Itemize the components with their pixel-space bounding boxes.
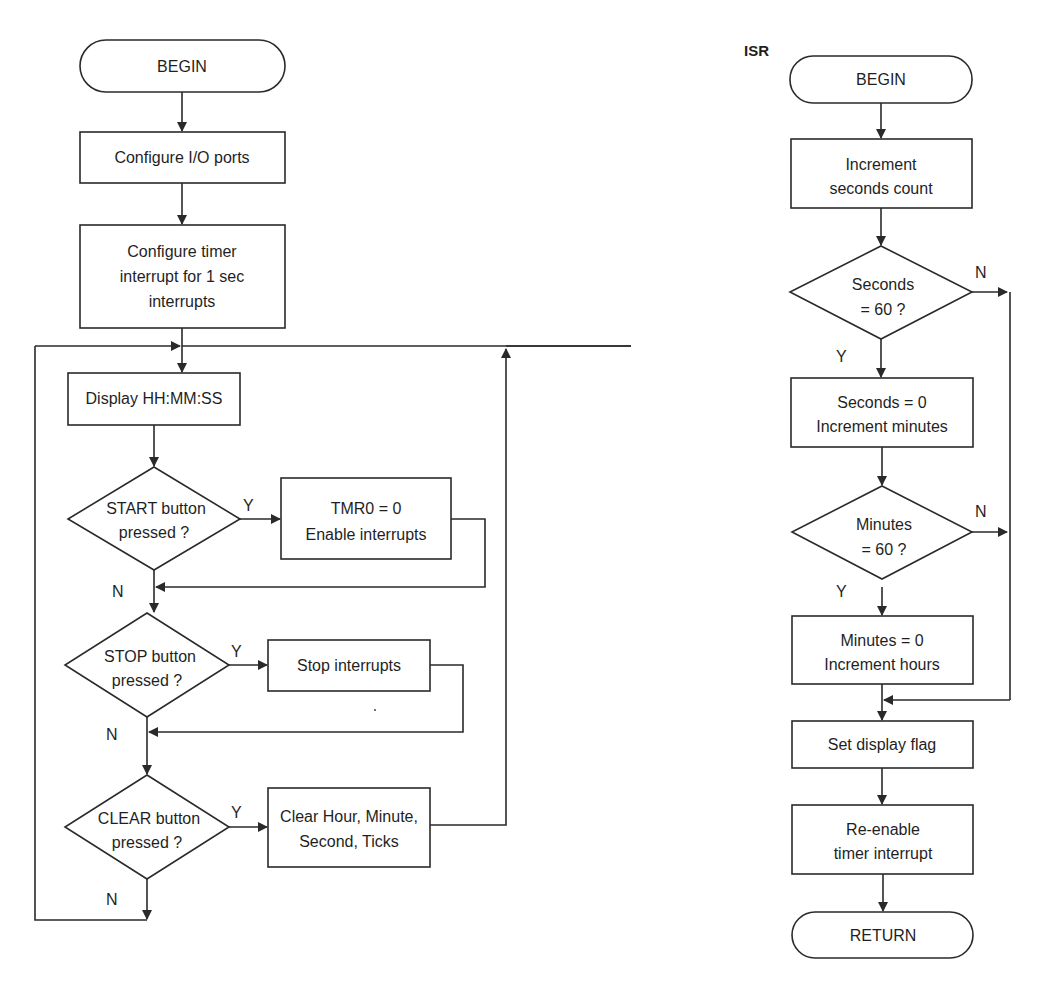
clear-decision-line1: CLEAR button — [98, 810, 200, 827]
minutes-action-process: Minutes = 0 Increment hours — [792, 616, 973, 684]
seconds-yes-label: Y — [836, 348, 847, 365]
stop-decision: STOP button pressed ? — [65, 613, 229, 717]
stop-decision-line1: STOP button — [104, 648, 196, 665]
start-action-process: TMR0 = 0 Enable interrupts — [281, 478, 451, 559]
start-action-line2: Enable interrupts — [306, 526, 427, 543]
clear-action-process: Clear Hour, Minute, Second, Ticks — [268, 788, 430, 867]
clear-no-label: N — [106, 891, 118, 908]
inc-seconds-process: Increment seconds count — [791, 139, 972, 208]
start-decision-line2: pressed ? — [119, 524, 189, 541]
return-label: RETURN — [850, 927, 917, 944]
seconds-action-line2: Increment minutes — [816, 418, 948, 435]
config-timer-line2: interrupt for 1 sec — [120, 268, 245, 285]
seconds-decision-line2: = 60 ? — [861, 301, 906, 318]
start-yes-label: Y — [243, 497, 254, 514]
reenable-process: Re-enable timer interrupt — [792, 805, 973, 874]
start-no-label: N — [112, 583, 124, 600]
config-timer-line3: interrupts — [149, 293, 216, 310]
reenable-line1: Re-enable — [846, 821, 920, 838]
stop-action-process: Stop interrupts — [268, 640, 430, 691]
isr-flowchart: ISR BEGIN Increment seconds count Second… — [744, 42, 1010, 958]
isr-begin-label: BEGIN — [856, 71, 906, 88]
minutes-yes-label: Y — [836, 583, 847, 600]
main-begin-label: BEGIN — [157, 58, 207, 75]
config-io-process: Configure I/O ports — [80, 132, 285, 183]
inc-seconds-line1: Increment — [845, 156, 917, 173]
minutes-decision: Minutes = 60 ? — [792, 486, 972, 579]
start-action-line1: TMR0 = 0 — [331, 500, 402, 517]
minutes-decision-line2: = 60 ? — [862, 541, 907, 558]
main-flowchart: BEGIN Configure I/O ports Configure time… — [35, 40, 631, 920]
minutes-decision-line1: Minutes — [856, 516, 912, 533]
set-flag-process: Set display flag — [792, 721, 973, 768]
main-begin-terminator: BEGIN — [80, 40, 285, 92]
inc-seconds-line2: seconds count — [829, 180, 933, 197]
set-flag-label: Set display flag — [828, 736, 937, 753]
display-process: Display HH:MM:SS — [68, 373, 240, 425]
clear-decision-line2: pressed ? — [112, 834, 182, 851]
clear-action-line2: Second, Ticks — [299, 833, 399, 850]
stop-decision-line2: pressed ? — [112, 672, 182, 689]
seconds-decision: Seconds = 60 ? — [790, 246, 972, 339]
stop-action-label: Stop interrupts — [297, 657, 401, 674]
isr-begin-terminator: BEGIN — [790, 56, 972, 103]
stop-no-label: N — [106, 726, 118, 743]
stop-yes-label: Y — [231, 643, 242, 660]
start-decision: START button pressed ? — [68, 467, 240, 570]
clear-action-line1: Clear Hour, Minute, — [280, 808, 418, 825]
config-timer-line1: Configure timer — [127, 243, 237, 260]
clear-decision: CLEAR button pressed ? — [65, 775, 229, 879]
flowchart-canvas: BEGIN Configure I/O ports Configure time… — [0, 0, 1042, 983]
isr-title: ISR — [744, 42, 769, 59]
return-terminator: RETURN — [792, 912, 973, 958]
minutes-action-line2: Increment hours — [824, 656, 940, 673]
clear-yes-label: Y — [231, 804, 242, 821]
reenable-line2: timer interrupt — [834, 845, 933, 862]
seconds-no-label: N — [975, 264, 987, 281]
minutes-no-label: N — [975, 503, 987, 520]
seconds-action-line1: Seconds = 0 — [837, 394, 927, 411]
minutes-action-line1: Minutes = 0 — [840, 632, 923, 649]
config-timer-process: Configure timer interrupt for 1 sec inte… — [80, 225, 285, 328]
seconds-action-process: Seconds = 0 Increment minutes — [791, 378, 973, 447]
seconds-decision-line1: Seconds — [852, 276, 914, 293]
stray-dot — [374, 709, 376, 711]
display-label: Display HH:MM:SS — [86, 390, 223, 407]
config-io-label: Configure I/O ports — [114, 149, 249, 166]
start-decision-line1: START button — [106, 500, 206, 517]
